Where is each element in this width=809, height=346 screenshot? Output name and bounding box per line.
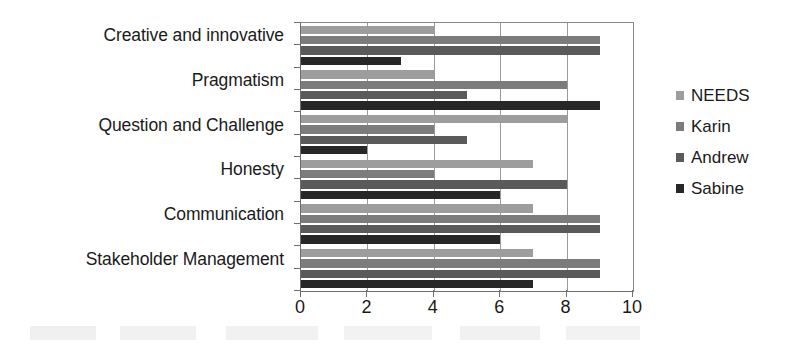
plot-area (300, 22, 634, 292)
legend-item[interactable]: NEEDS (676, 80, 804, 111)
bar-row (301, 180, 633, 188)
bar-row (301, 225, 633, 233)
bar-row (301, 160, 633, 168)
value-tick-8 (566, 290, 567, 297)
bar-row (301, 235, 633, 243)
bar (301, 26, 434, 34)
legend-label: Andrew (691, 149, 749, 166)
category-label: Honesty (221, 161, 285, 179)
bar (301, 146, 367, 154)
bar-row (301, 36, 633, 44)
value-tick-6 (499, 290, 500, 297)
bar (301, 270, 600, 278)
bar-group (301, 246, 633, 291)
bar (301, 180, 567, 188)
bar (301, 70, 434, 78)
value-tick-label: 2 (361, 298, 371, 316)
bar (301, 125, 434, 133)
bar (301, 204, 533, 212)
bar (301, 136, 467, 144)
value-axis-ticks (300, 290, 633, 298)
value-tick-0 (300, 290, 301, 297)
bar-row (301, 259, 633, 267)
bar-row (301, 204, 633, 212)
bar-row (301, 81, 633, 89)
bar-chart: Creative and innovativePragmatismQuestio… (0, 0, 809, 346)
legend-label: Karin (691, 118, 731, 135)
bar-row (301, 57, 633, 65)
bar-row (301, 191, 633, 199)
bar-row (301, 70, 633, 78)
category-label: Question and Challenge (98, 117, 284, 135)
value-tick-label: 4 (428, 298, 438, 316)
value-tick-10 (632, 290, 633, 297)
bar (301, 101, 600, 109)
bar (301, 57, 401, 65)
bar-row (301, 270, 633, 278)
legend-swatch-icon (676, 122, 684, 131)
value-tick-4 (433, 290, 434, 297)
legend-swatch-icon (676, 91, 684, 100)
bar (301, 249, 533, 257)
category-label: Stakeholder Management (86, 251, 284, 269)
bar-row (301, 215, 633, 223)
bar-group (301, 112, 633, 157)
bar-group (301, 23, 633, 68)
bar-groups (301, 23, 633, 291)
category-label: Creative and innovative (103, 27, 284, 45)
bar-group (301, 68, 633, 113)
bar (301, 215, 600, 223)
bar (301, 191, 500, 199)
legend-swatch-icon (676, 184, 684, 193)
bar-row (301, 280, 633, 288)
value-tick-label: 0 (295, 298, 305, 316)
bar-group (301, 157, 633, 202)
bar (301, 81, 567, 89)
value-tick-2 (366, 290, 367, 297)
value-tick-label: 6 (494, 298, 504, 316)
chart-legend: NEEDSKarinAndrewSabine (676, 80, 804, 204)
bar (301, 280, 533, 288)
bar (301, 259, 600, 267)
bar (301, 235, 500, 243)
bar-row (301, 91, 633, 99)
category-axis-labels: Creative and innovativePragmatismQuestio… (0, 22, 292, 290)
category-label: Pragmatism (192, 72, 284, 90)
bar (301, 46, 600, 54)
value-tick-label: 8 (561, 298, 571, 316)
value-tick-label: 10 (622, 298, 642, 316)
legend-item[interactable]: Karin (676, 111, 804, 142)
legend-label: NEEDS (691, 87, 750, 104)
bar-row (301, 125, 633, 133)
bar-row (301, 170, 633, 178)
bar-group (301, 202, 633, 247)
bar (301, 36, 600, 44)
legend-swatch-icon (676, 153, 684, 162)
bar-row (301, 101, 633, 109)
value-axis-labels: 0246810 (300, 298, 633, 324)
legend-label: Sabine (691, 180, 744, 197)
legend-item[interactable]: Sabine (676, 173, 804, 204)
bar (301, 170, 434, 178)
bar-row (301, 146, 633, 154)
bar (301, 225, 600, 233)
legend-item[interactable]: Andrew (676, 142, 804, 173)
page-scan-artifact (0, 326, 809, 340)
bar-row (301, 249, 633, 257)
category-label: Communication (164, 206, 284, 224)
bar (301, 115, 567, 123)
bar (301, 160, 533, 168)
bar-row (301, 115, 633, 123)
bar-row (301, 46, 633, 54)
bar (301, 91, 467, 99)
bar-row (301, 26, 633, 34)
bar-row (301, 136, 633, 144)
